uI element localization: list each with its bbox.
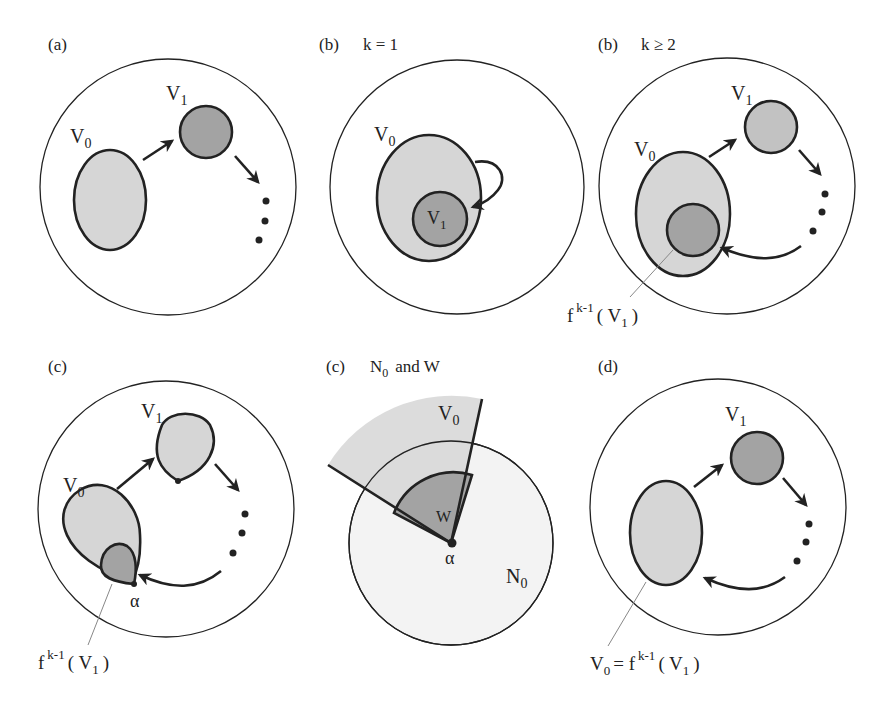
ellipsis-dot [806, 521, 813, 528]
ellipsis-dot [822, 191, 829, 198]
label-fk1-v1: fk-1( V1) [38, 647, 109, 677]
panel-tag: (c) [48, 357, 67, 376]
point-alpha [448, 539, 457, 548]
ellipsis-dot [242, 511, 249, 518]
ellipsis-dot [263, 198, 270, 205]
ellipsis-dot [803, 539, 810, 546]
panel-tag: (c) [326, 357, 345, 376]
point-alpha [131, 581, 137, 587]
label-w: W [436, 508, 452, 525]
panel-d: (d) V1 V0= fk-1( V1) [590, 357, 846, 678]
panel-c: (c) α V0 V1 fk-1( V1) [38, 357, 294, 677]
set-fk1-v1 [667, 204, 719, 256]
dynamics-figure: (a) V0 V1 (b) k = 1 V0 V1 (b) k ≥ 2 [0, 0, 882, 718]
set-v1 [180, 106, 232, 158]
ellipsis-dot [256, 237, 263, 244]
set-v0 [630, 481, 702, 585]
ellipsis-dot [810, 228, 817, 235]
panel-title: N0and W [370, 357, 441, 380]
panel-b-k2: (b) k ≥ 2 V0 V1 fk-1( V1) [567, 35, 855, 330]
panel-tag: (a) [48, 35, 67, 54]
panel-tag: (b) [319, 35, 339, 54]
ellipsis-dot [230, 550, 237, 557]
set-v0 [74, 150, 146, 250]
label-alpha: α [130, 591, 140, 611]
panel-title: k ≥ 2 [641, 35, 676, 54]
outer-disk [599, 58, 855, 314]
panel-b-k1: (b) k = 1 V0 V1 [319, 35, 584, 314]
set-v1 [731, 432, 783, 484]
ellipsis-dot [794, 558, 801, 565]
ellipsis-dot [262, 218, 269, 225]
panel-a: (a) V0 V1 [40, 35, 296, 315]
point-v1-tip [175, 478, 181, 484]
panel-tag: (b) [598, 35, 618, 54]
panel-tag: (d) [598, 357, 618, 376]
ellipsis-dot [239, 530, 246, 537]
set-v1 [745, 101, 797, 153]
outer-disk [590, 379, 846, 635]
label-fk1-v1: fk-1( V1) [567, 300, 638, 330]
panel-c-n0-w: (c) N0and W α W V0 N0 [326, 357, 553, 645]
label-alpha: α [445, 548, 455, 568]
label-v0-equals-fk1-v1: V0= fk-1( V1) [590, 648, 700, 678]
panel-title: k = 1 [363, 35, 398, 54]
ellipsis-dot [819, 209, 826, 216]
